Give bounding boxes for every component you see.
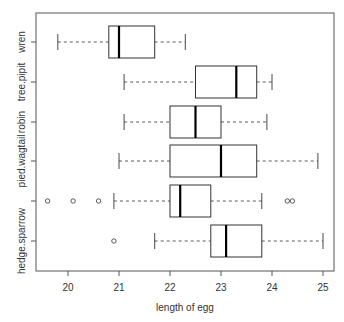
x-tick-label: 24 (266, 282, 278, 293)
outlier-point (290, 199, 294, 203)
x-tick-label: 21 (113, 282, 125, 293)
x-axis: 202122232425 (62, 271, 329, 293)
x-tick-label: 23 (215, 282, 227, 293)
iqr-box (109, 26, 155, 58)
iqr-box (170, 185, 211, 217)
outlier-point (71, 199, 75, 203)
y-tick-label: hedge.sparrow (16, 207, 27, 274)
y-axis: hedge.sparrowpied.wagtailrobintree.pipit… (16, 31, 36, 274)
outlier-point (96, 199, 100, 203)
iqr-box (196, 66, 257, 98)
plot-frame (36, 13, 334, 271)
x-tick-label: 22 (164, 282, 176, 293)
box-tree-pipit (124, 66, 272, 98)
y-tick-label: pied.wagtail (16, 135, 27, 188)
y-tick-label: robin (16, 111, 27, 133)
boxes (45, 26, 323, 257)
box-meadow-pipit (45, 185, 294, 217)
iqr-box (211, 225, 262, 257)
iqr-box (170, 145, 257, 177)
box-robin (124, 106, 267, 138)
boxplot-chart: 202122232425 hedge.sparrowpied.wagtailro… (0, 0, 344, 322)
box-hedge-sparrow (112, 225, 323, 257)
y-tick-label: tree.pipit (16, 63, 27, 102)
y-tick-label: wren (16, 31, 27, 54)
box-pied-wagtail (119, 145, 318, 177)
box-wren (58, 26, 186, 58)
x-tick-label: 20 (62, 282, 74, 293)
x-axis-label: length of egg (156, 302, 214, 313)
outlier-point (45, 199, 49, 203)
outlier-point (112, 239, 116, 243)
outlier-point (285, 199, 289, 203)
x-tick-label: 25 (317, 282, 329, 293)
